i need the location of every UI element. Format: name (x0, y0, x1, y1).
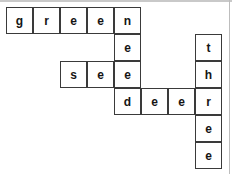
cell-r2-c4[interactable]: e (114, 61, 141, 88)
cell-r2-c3[interactable]: e (87, 61, 114, 88)
crossword-screenshot: greenetseehdeeree (0, 0, 232, 174)
cell-r3-c5[interactable]: e (141, 88, 168, 115)
cell-r0-c2[interactable]: e (60, 7, 87, 34)
cell-r1-c7[interactable]: t (195, 34, 222, 61)
cell-r3-c4[interactable]: d (114, 88, 141, 115)
cell-r5-c7[interactable]: e (195, 142, 222, 169)
cell-r1-c4[interactable]: e (114, 34, 141, 61)
cell-r0-c1[interactable]: r (33, 7, 60, 34)
cell-r0-c3[interactable]: e (87, 7, 114, 34)
cell-r2-c7[interactable]: h (195, 61, 222, 88)
cell-r0-c4[interactable]: n (114, 7, 141, 34)
cell-r0-c0[interactable]: g (6, 7, 33, 34)
cell-r3-c7[interactable]: r (195, 88, 222, 115)
cell-r4-c7[interactable]: e (195, 115, 222, 142)
cell-r3-c6[interactable]: e (168, 88, 195, 115)
cell-r2-c2[interactable]: s (60, 61, 87, 88)
crossword-grid: greenetseehdeeree (0, 0, 232, 174)
